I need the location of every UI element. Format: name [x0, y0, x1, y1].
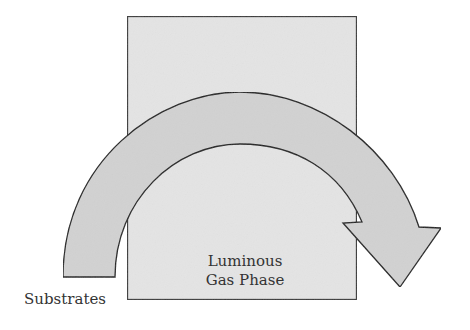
substrates-label: Substrates	[24, 290, 106, 309]
gas-phase-label-line2: Gas Phase	[190, 271, 300, 290]
gas-phase-label-line1: Luminous	[190, 252, 300, 271]
gas-phase-label: Luminous Gas Phase	[190, 252, 300, 290]
